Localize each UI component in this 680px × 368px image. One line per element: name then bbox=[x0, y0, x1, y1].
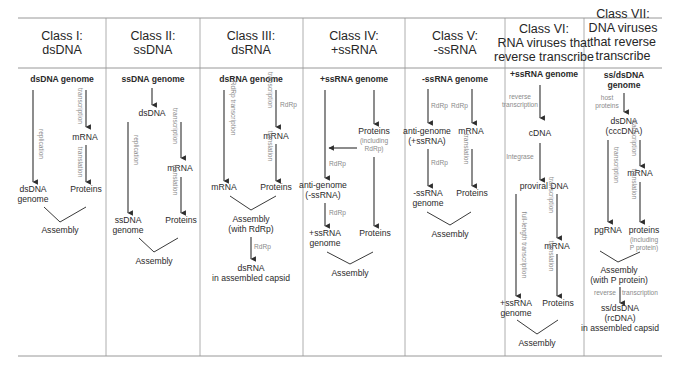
proteins-node: Proteins bbox=[70, 184, 102, 194]
proteins-node: Proteins bbox=[165, 215, 197, 225]
genome-node-line2: genome bbox=[608, 80, 641, 90]
replication-label: replication bbox=[132, 135, 140, 165]
assembly-join bbox=[600, 251, 640, 262]
pgrna-node: pgRNA bbox=[594, 225, 622, 235]
rdrp-final-label: RdRp bbox=[254, 243, 271, 251]
genome-node: dsDNA genome bbox=[30, 74, 94, 84]
reverse-transcription-label-line2: transcription bbox=[502, 101, 538, 109]
header-class-7-line3: that reverse bbox=[590, 35, 656, 49]
assembly-join bbox=[44, 207, 86, 222]
proteins-rdrp-node-line3: RdRp) bbox=[364, 145, 383, 153]
progeny-genome-node: +ssRNA bbox=[309, 228, 341, 238]
class-1-flow: dsDNA genome replication transcription m… bbox=[17, 74, 101, 235]
rdrp-right-label: RdRp bbox=[451, 102, 468, 110]
column-headers: Class I: dsDNA Class II: ssDNA Class III… bbox=[41, 7, 657, 64]
header-class-1-line1: Class I: bbox=[41, 29, 83, 43]
rdrp-transcription-label: RdRp transcription bbox=[229, 81, 237, 136]
proteins-node-line3: P protein) bbox=[630, 244, 658, 252]
rdrp-label-2: RdRp bbox=[329, 209, 346, 217]
final-node-line3: in assembled capsid bbox=[581, 323, 659, 333]
progeny-genome-node: dsDNA bbox=[19, 184, 46, 194]
transcription-label: transcription bbox=[171, 108, 179, 144]
assembly-join bbox=[230, 196, 276, 210]
integrase-label: Integrase bbox=[506, 153, 534, 161]
reverse-label: reverse bbox=[594, 289, 616, 296]
progeny-genome-node-line2: genome bbox=[112, 225, 143, 235]
dsdna-node: dsDNA bbox=[138, 108, 165, 118]
proviral-dna-node: proviral DNA bbox=[520, 181, 569, 191]
transcription-rt-label: transcription bbox=[622, 289, 658, 297]
mrna-left-node: mRNA bbox=[211, 182, 237, 192]
antigenome-node: anti-genome bbox=[299, 180, 347, 190]
header-class-1-line2: dsDNA bbox=[42, 43, 82, 57]
assembly-node: Assembly bbox=[518, 338, 556, 348]
transcription-label: transcription bbox=[76, 88, 84, 124]
proteins-node: Proteins bbox=[359, 228, 391, 238]
progeny-genome-node-line2: genome bbox=[17, 194, 48, 204]
rdrp-left-label: RdRp bbox=[431, 102, 448, 110]
progeny-genome-node-line2: genome bbox=[309, 238, 340, 248]
rdrp-label: RdRp bbox=[280, 101, 297, 109]
baltimore-diagram: Class I: dsDNA Class II: ssDNA Class III… bbox=[0, 0, 680, 368]
assembly-join bbox=[327, 252, 373, 264]
antigenome-node-line2: (+ssRNA) bbox=[408, 136, 446, 146]
header-class-3-line1: Class III: bbox=[227, 29, 276, 43]
assembly-node: Assembly bbox=[41, 225, 79, 235]
header-class-7-line4: transcribe bbox=[596, 49, 651, 63]
header-class-6-line2: RNA viruses that bbox=[497, 36, 591, 50]
header-class-4-line1: Class IV: bbox=[329, 29, 379, 43]
assembly-node: Assembly bbox=[331, 268, 369, 278]
assembly-node-line2: (with RdRp) bbox=[228, 224, 274, 234]
proteins-node: Proteins bbox=[260, 182, 292, 192]
assembly-join bbox=[139, 238, 178, 252]
reverse-transcription-label: reverse bbox=[509, 93, 531, 100]
class-5-flow: -ssRNA genome RdRp RdRp anti-genome (+ss… bbox=[403, 74, 488, 239]
translation-label: translation bbox=[548, 241, 555, 272]
class-4-flow: +ssRNA genome Proteins (including RdRp) … bbox=[299, 74, 391, 278]
header-class-6-line3: reverse transcribe bbox=[494, 50, 594, 64]
final-node-line2: in assembled capsid bbox=[212, 273, 290, 283]
assembly-node: Assembly bbox=[135, 256, 173, 266]
full-length-transcription-label: full-length transcription bbox=[520, 212, 528, 279]
header-class-6-line1: Class VI: bbox=[519, 22, 569, 36]
progeny-genome-node-line2: genome bbox=[412, 198, 443, 208]
assembly-join bbox=[427, 212, 471, 225]
class-7-flow: ss/dsDNA genome host proteins dsDNA (ccc… bbox=[581, 70, 659, 333]
progeny-genome-node: -ssRNA bbox=[413, 188, 443, 198]
header-class-4-line2: +ssRNA bbox=[331, 43, 378, 57]
translation-label: translation bbox=[463, 134, 470, 165]
assembly-node-line2: (with P protein) bbox=[590, 275, 648, 285]
header-class-5-line1: Class V: bbox=[432, 29, 478, 43]
header-class-2-line2: ssDNA bbox=[134, 43, 174, 57]
translation-label: translation bbox=[631, 169, 638, 200]
assembly-node: Assembly bbox=[232, 214, 270, 224]
mrna-node: mRNA bbox=[72, 132, 98, 142]
genome-node: ss/dsDNA bbox=[604, 70, 645, 80]
transcription-right-label: transcription bbox=[630, 120, 638, 156]
progeny-genome-node: ssDNA bbox=[115, 215, 142, 225]
translation-label: translation bbox=[172, 165, 179, 196]
antigenome-node-line2: (-ssRNA) bbox=[305, 190, 340, 200]
rdrp-lower-label: RdRp bbox=[431, 159, 448, 167]
genome-node: ssDNA genome bbox=[121, 74, 184, 84]
proteins-node-line2: (including bbox=[630, 236, 659, 244]
genome-node: +ssRNA genome bbox=[510, 69, 578, 79]
header-class-7-line2: DNA viruses bbox=[589, 21, 658, 35]
final-node: ss/dsDNA bbox=[601, 303, 639, 313]
genome-node: +ssRNA genome bbox=[320, 74, 388, 84]
transcription-label: transcription bbox=[266, 72, 274, 108]
class-3-flow: dsRNA genome RdRp transcription transcri… bbox=[211, 72, 297, 283]
mrna-node: mRNA bbox=[167, 163, 193, 173]
header-class-2-line1: Class II: bbox=[130, 29, 175, 43]
class-6-flow: +ssRNA genome reverse transcription cDNA… bbox=[500, 69, 578, 348]
assembly-join bbox=[517, 320, 558, 334]
header-class-7-line1: Class VII: bbox=[596, 7, 650, 21]
proteins-node: Proteins bbox=[542, 298, 574, 308]
assembly-node: Assembly bbox=[431, 229, 469, 239]
final-node: dsRNA bbox=[237, 263, 264, 273]
host-proteins-label-line2: proteins bbox=[595, 102, 619, 110]
translation-label: translation bbox=[77, 147, 84, 178]
final-node-line2: (rcDNA) bbox=[604, 313, 635, 323]
class-2-flow: ssDNA genome dsDNA replication transcrip… bbox=[112, 74, 196, 266]
host-proteins-label: host bbox=[601, 94, 614, 101]
